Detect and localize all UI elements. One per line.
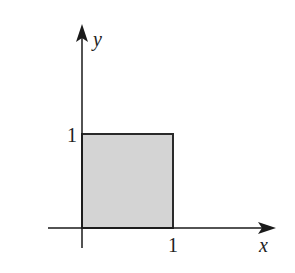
y-tick-label: 1	[67, 124, 77, 146]
y-axis-label: y	[91, 28, 102, 51]
x-tick-label: 1	[168, 234, 178, 256]
x-axis-label: x	[258, 234, 268, 256]
shaded-square-region	[82, 134, 173, 228]
diagram-canvas: y x 1 1	[0, 0, 295, 273]
